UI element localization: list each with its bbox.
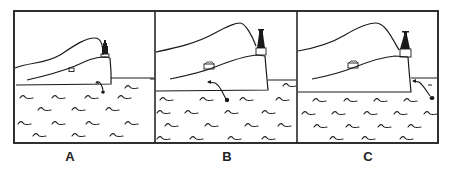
frame-border xyxy=(14,11,438,143)
panel-a xyxy=(15,38,154,137)
cliff-face xyxy=(156,56,268,91)
lighthouse-icon xyxy=(101,40,109,57)
panel-label-a: A xyxy=(60,149,80,164)
hill-outline xyxy=(15,38,103,68)
cliff-face xyxy=(298,57,411,92)
cliff-face xyxy=(16,58,111,85)
slope-contour xyxy=(27,57,110,80)
hill-outline xyxy=(298,23,399,51)
sea-waves xyxy=(157,84,296,140)
lighthouse-icon xyxy=(400,31,411,57)
hill-outline xyxy=(156,23,256,52)
floating-object-icon xyxy=(412,79,435,100)
panel-b xyxy=(150,23,296,140)
panel-label-b: B xyxy=(217,149,237,164)
panel-label-c: C xyxy=(358,149,378,164)
three-panel-diagram xyxy=(0,0,451,170)
sea-waves xyxy=(302,99,437,140)
floating-object-icon xyxy=(95,81,105,94)
panel-c xyxy=(298,23,437,140)
slope-contour xyxy=(170,55,265,79)
slope-contour xyxy=(312,56,408,79)
sea-waves xyxy=(18,86,138,137)
lighthouse-icon xyxy=(256,29,266,55)
